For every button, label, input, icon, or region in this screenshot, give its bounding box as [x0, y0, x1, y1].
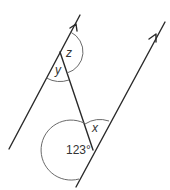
- angle-x-label: x: [91, 121, 99, 135]
- transversal-line: [60, 52, 93, 150]
- angle-123-label: 123°: [66, 143, 91, 157]
- angle-y-label: y: [54, 63, 62, 77]
- right-parallel-line: [76, 22, 165, 187]
- left-parallel-line: [9, 15, 80, 149]
- angle-y-arc: [47, 78, 70, 81]
- angle-z-label: z: [65, 46, 72, 60]
- parallel-lines-diagram: z y x 123°: [0, 0, 170, 190]
